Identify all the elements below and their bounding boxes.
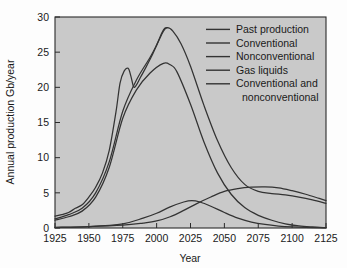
legend-label-3: Gas liquids — [236, 64, 288, 76]
legend-label-0: Past production — [236, 23, 309, 35]
line-chart: 192519501975200020252050207521002125 051… — [0, 0, 347, 268]
x-tick-label: 2050 — [213, 232, 237, 244]
x-axis-title: Year — [179, 252, 201, 264]
chart-figure: 192519501975200020252050207521002125 051… — [0, 0, 347, 268]
x-tick-label: 1975 — [111, 232, 135, 244]
y-tick-label: 10 — [37, 151, 49, 163]
y-tick-label: 15 — [37, 116, 49, 128]
legend-label-4: Conventional and — [236, 77, 318, 89]
legend-label-5: nonconventional — [242, 91, 318, 103]
y-tick-label: 30 — [37, 11, 49, 23]
x-tick-label: 1950 — [77, 232, 101, 244]
legend-label-1: Conventional — [236, 37, 297, 49]
y-axis-tick-labels: 051015202530 — [37, 11, 49, 234]
y-tick-label: 20 — [37, 81, 49, 93]
y-tick-label: 0 — [43, 222, 49, 234]
y-axis-title: Annual production Gb/year — [4, 59, 16, 184]
x-axis-tick-labels: 192519501975200020252050207521002125 — [43, 232, 338, 244]
x-tick-label: 2125 — [314, 232, 338, 244]
y-tick-label: 25 — [37, 46, 49, 58]
x-tick-label: 2025 — [179, 232, 203, 244]
legend-label-2: Nonconventional — [236, 50, 314, 62]
x-tick-label: 2075 — [247, 232, 271, 244]
x-tick-label: 2100 — [280, 232, 304, 244]
x-tick-label: 2000 — [145, 232, 169, 244]
y-tick-label: 5 — [43, 187, 49, 199]
